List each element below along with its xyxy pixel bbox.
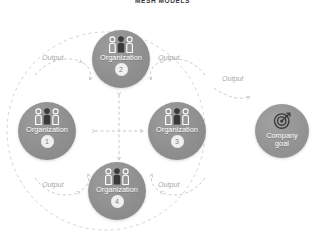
node-badge: 3	[171, 135, 184, 148]
target-bullseye-icon	[273, 111, 292, 130]
output-arrow-bottom-right-tail	[151, 174, 158, 190]
node-label: Organization	[100, 54, 142, 62]
node-organization-2[interactable]: Organization 2	[92, 30, 150, 88]
node-company-goal[interactable]: Company goal	[255, 104, 309, 158]
node-label: Organization	[96, 186, 138, 194]
output-arrow-top-right-tail	[150, 63, 158, 80]
output-label-bottom-left: Output	[42, 180, 64, 189]
output-arrow-top-left-tail	[83, 63, 91, 80]
people-group-icon	[34, 108, 60, 125]
node-label: Organization	[156, 126, 198, 134]
output-arrow-to-goal	[214, 88, 250, 98]
output-label-to-goal: Output	[222, 74, 244, 83]
output-label-bottom-right: Output	[158, 180, 180, 189]
node-organization-4[interactable]: Organization 4	[88, 162, 146, 220]
people-group-icon	[108, 36, 134, 53]
people-group-icon	[104, 168, 130, 185]
node-organization-1[interactable]: Organization 1	[18, 102, 76, 160]
people-group-icon	[164, 108, 190, 125]
node-badge: 4	[111, 195, 124, 208]
node-badge: 1	[41, 135, 54, 148]
node-organization-3[interactable]: Organization 3	[148, 102, 206, 160]
output-label-top-left: Output	[42, 53, 64, 62]
output-label-top-right: Output	[158, 53, 180, 62]
goal-label-line2: goal	[275, 140, 289, 148]
node-label: Organization	[26, 126, 68, 134]
figure-title: MESH MODELS	[0, 0, 325, 4]
node-badge: 2	[115, 63, 128, 76]
mesh-models-diagram: MESH MODELS	[0, 0, 325, 239]
